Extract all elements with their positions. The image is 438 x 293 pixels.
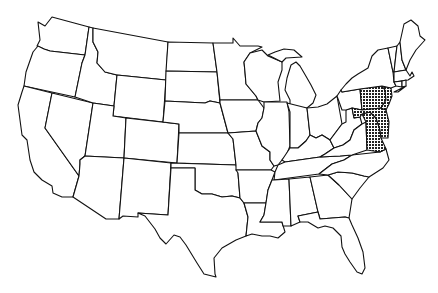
- state-new-york: [341, 48, 396, 92]
- state-rhode-island: [402, 80, 406, 87]
- state-north-dakota: [166, 42, 217, 72]
- us-map-svg: [0, 0, 438, 293]
- state-new-mexico: [119, 158, 171, 219]
- state-florida: [298, 212, 365, 274]
- state-maine: [400, 20, 425, 70]
- state-kansas: [177, 133, 236, 165]
- state-arizona: [73, 156, 124, 219]
- us-map: United States outline map: [0, 0, 438, 293]
- state-colorado: [124, 118, 179, 163]
- state-pennsylvania-west: [337, 89, 362, 110]
- state-wyoming: [113, 75, 166, 122]
- state-south-dakota: [165, 71, 220, 103]
